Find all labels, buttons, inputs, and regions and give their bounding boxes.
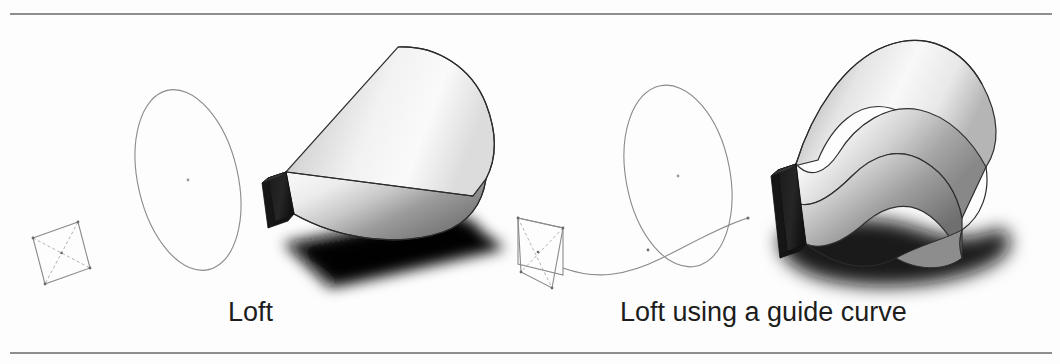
right-profile-sketch xyxy=(517,217,565,290)
left-lofted-solid xyxy=(262,47,494,240)
left-ellipse-sketch xyxy=(119,79,258,281)
left-profile-sketch xyxy=(32,221,92,286)
figure-loft-basic xyxy=(32,47,505,288)
right-ellipse-sketch xyxy=(609,76,746,276)
figure-page: Loft Loft using a guide curve xyxy=(0,0,1060,364)
figure-loft-guide-curve xyxy=(517,41,1011,290)
caption-loft-guide-curve: Loft using a guide curve xyxy=(620,299,907,326)
guide-curve xyxy=(563,216,750,274)
caption-loft-basic: Loft xyxy=(228,299,273,326)
